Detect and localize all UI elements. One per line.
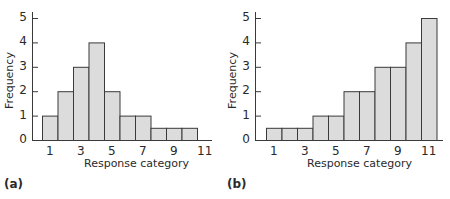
histogram-bar (344, 92, 360, 141)
x-tick-label: 7 (133, 144, 153, 158)
x-tick-label: 9 (388, 144, 408, 158)
histogram-bar (58, 92, 74, 141)
x-tick-label: 3 (295, 144, 315, 158)
x-tick-label: 1 (264, 144, 284, 158)
y-tick-label: 5 (238, 10, 250, 24)
y-tick-label: 3 (15, 59, 27, 73)
y-tick-label: 1 (15, 108, 27, 122)
x-tick-label: 11 (419, 144, 439, 158)
histogram-bar (182, 128, 198, 140)
y-tick-label: 5 (15, 10, 27, 24)
y-tick-label: 0 (15, 132, 27, 146)
x-axis-label-a: Response category (84, 157, 189, 170)
histogram-panel-b: Frequency Response category (b) 01234513… (225, 0, 450, 199)
histogram-bar (282, 128, 298, 140)
histogram-panel-a: Frequency Response category (a) 01234513… (0, 0, 225, 199)
y-axis-label-a: Frequency (3, 46, 16, 116)
histogram-bar (43, 116, 59, 140)
y-axis-label-b: Frequency (226, 46, 239, 116)
histogram-bar (313, 116, 329, 140)
y-tick-label: 0 (238, 132, 250, 146)
histogram-bar (360, 92, 376, 141)
y-tick-label: 2 (238, 83, 250, 97)
histogram-bar (267, 128, 283, 140)
histogram-bar (422, 19, 438, 141)
y-tick-label: 4 (238, 34, 250, 48)
panel-label-a: (a) (4, 177, 23, 191)
histogram-bar (375, 67, 391, 140)
x-axis-label-b: Response category (307, 157, 412, 170)
x-tick-label: 1 (40, 144, 60, 158)
x-tick-label: 11 (195, 144, 215, 158)
histogram-bar (406, 43, 422, 141)
y-tick-label: 1 (238, 108, 250, 122)
histogram-bar (391, 67, 407, 140)
x-tick-label: 5 (326, 144, 346, 158)
histogram-bar (151, 128, 167, 140)
histogram-bar (167, 128, 183, 140)
histogram-bar (329, 116, 345, 140)
histogram-bar (89, 43, 105, 141)
x-tick-label: 5 (102, 144, 122, 158)
x-tick-label: 3 (71, 144, 91, 158)
x-tick-label: 7 (357, 144, 377, 158)
histogram-bar (120, 116, 136, 140)
histogram-bar (74, 67, 90, 140)
histogram-bar (105, 92, 121, 141)
histogram-bar (298, 128, 314, 140)
y-tick-label: 4 (15, 34, 27, 48)
y-tick-label: 3 (238, 59, 250, 73)
panel-label-b: (b) (227, 177, 247, 191)
y-tick-label: 2 (15, 83, 27, 97)
x-tick-label: 9 (164, 144, 184, 158)
histogram-bar (136, 116, 152, 140)
